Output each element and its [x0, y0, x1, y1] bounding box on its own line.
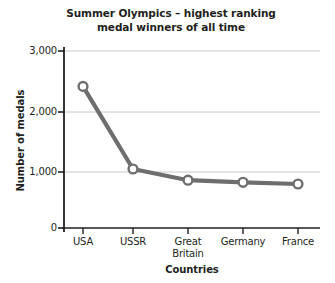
data-point-usa [79, 82, 88, 91]
data-line-number-of-medals [83, 86, 298, 184]
data-point-ussr [129, 165, 138, 174]
data-point-germany [239, 178, 248, 187]
data-point-great-britain [184, 176, 193, 185]
gridlines [64, 51, 320, 172]
chart-container: Summer Olympics – highest ranking medal … [0, 0, 335, 283]
x-axis-ticks [83, 228, 298, 234]
data-point-france [294, 180, 303, 189]
axis-lines [62, 47, 320, 232]
plot-area [0, 0, 335, 283]
